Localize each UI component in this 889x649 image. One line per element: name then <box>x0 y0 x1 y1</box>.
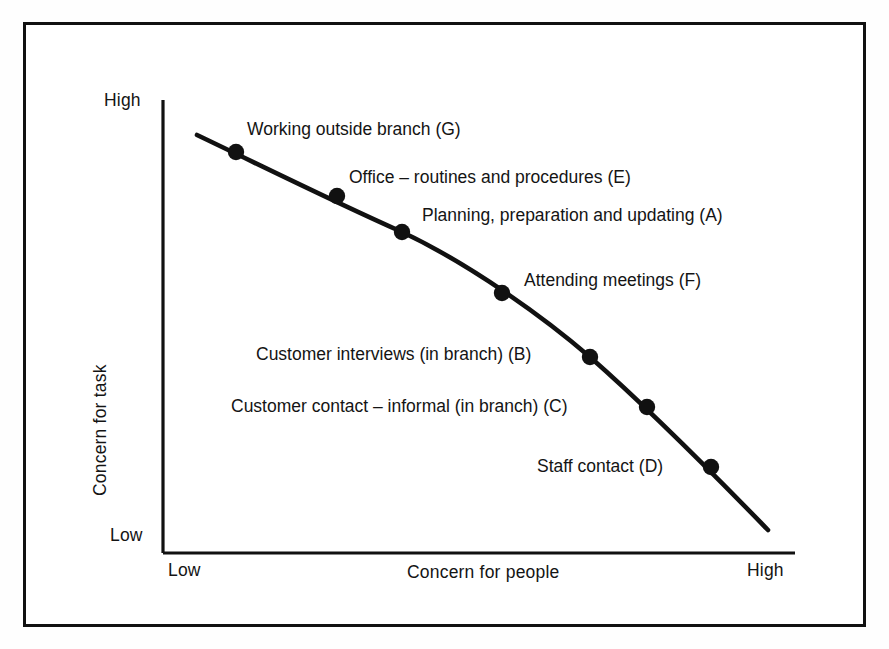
x-axis-low-label: Low <box>168 562 201 580</box>
y-axis-low-label: Low <box>110 527 143 545</box>
point-label-e: Office – routines and procedures (E) <box>349 167 631 188</box>
figure-canvas: High Low Low High Concern for people Con… <box>0 0 889 649</box>
point-label-b: Customer interviews (in branch) (B) <box>256 344 531 365</box>
point-label-c: Customer contact – informal (in branch) … <box>231 396 568 417</box>
point-label-f: Attending meetings (F) <box>524 270 701 291</box>
point-label-d: Staff contact (D) <box>537 456 663 477</box>
y-axis-high-label: High <box>104 92 141 110</box>
y-axis-title: Concern for task <box>92 364 110 496</box>
x-axis-title: Concern for people <box>407 564 559 582</box>
point-label-a: Planning, preparation and updating (A) <box>422 205 723 226</box>
y-axis-title-wrapper: Concern for task <box>95 186 117 406</box>
figure-border <box>23 22 866 627</box>
point-label-g: Working outside branch (G) <box>247 119 461 140</box>
x-axis-high-label: High <box>747 562 784 580</box>
